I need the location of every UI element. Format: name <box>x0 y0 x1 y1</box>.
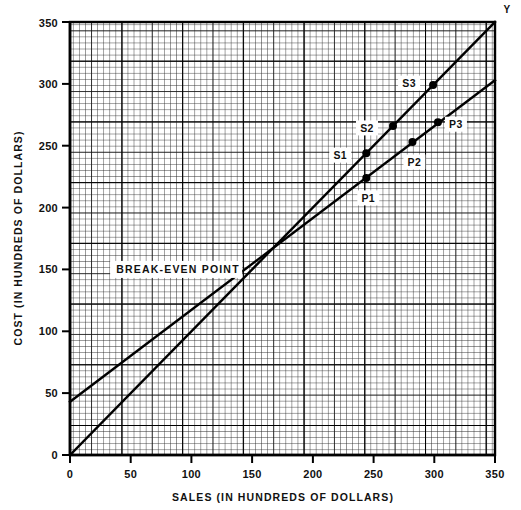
y-tick-label: 150 <box>39 263 58 275</box>
x-tick-label: 300 <box>425 468 444 480</box>
data-point-p2 <box>408 138 416 146</box>
y-axis-title: COST (IN HUNDREDS OF DOLLARS) <box>12 130 24 345</box>
x-tick-label: 100 <box>182 468 201 480</box>
break-even-chart: 0 50 100 150 200 250 300 350 0 50 100 15… <box>0 0 521 510</box>
x-tick-label: 0 <box>67 468 73 480</box>
x-tick-labels: 0 50 100 150 200 250 300 350 <box>67 468 505 480</box>
data-point-p1 <box>362 174 370 182</box>
y-tick-label: 350 <box>39 17 58 29</box>
y-tick-label: 0 <box>52 449 58 461</box>
x-tick-label: 250 <box>364 468 383 480</box>
data-point-p3 <box>434 118 442 126</box>
point-label-p2: P2 <box>408 156 422 168</box>
data-point-s3 <box>429 81 437 89</box>
x-axis-title: SALES (IN HUNDREDS OF DOLLARS) <box>172 491 394 503</box>
break-even-point-annotation: BREAK-EVEN POINT <box>110 261 242 278</box>
y-tick-label: 300 <box>39 78 58 90</box>
y-tick-label: 50 <box>45 387 58 399</box>
point-label-s2: S2 <box>360 122 374 134</box>
y-tick-label: 250 <box>39 140 58 152</box>
y-tick-label: 200 <box>39 202 58 214</box>
x-tick-label: 150 <box>242 468 261 480</box>
y-tick-label: 100 <box>39 325 58 337</box>
x-tick-label: 50 <box>124 468 137 480</box>
break-even-point-label: BREAK-EVEN POINT <box>116 263 240 275</box>
x-tick-label: 200 <box>303 468 322 480</box>
chart-canvas: 0 50 100 150 200 250 300 350 0 50 100 15… <box>0 0 521 510</box>
point-label-s3: S3 <box>402 77 416 89</box>
x-tick-label: 350 <box>485 468 504 480</box>
y-axis-end-label: Y <box>503 4 510 15</box>
data-point-s1 <box>362 149 370 157</box>
y-tick-labels: 0 50 100 150 200 250 300 350 <box>39 17 58 461</box>
point-label-p1: P1 <box>361 192 375 204</box>
point-label-p3: P3 <box>449 118 463 130</box>
data-point-s2 <box>389 122 397 130</box>
point-label-s1: S1 <box>333 149 347 161</box>
